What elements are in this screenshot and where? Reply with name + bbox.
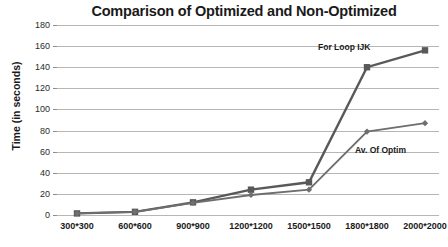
series-line: [77, 123, 425, 213]
data-point-marker: [422, 47, 428, 53]
y-axis-tick-label: 20: [40, 189, 50, 199]
y-axis-tick-label: 80: [40, 126, 50, 136]
x-axis-tick-label: 1200*1200: [229, 221, 273, 231]
x-axis-tick-label: 600*600: [118, 221, 152, 231]
y-axis-tick-label: 120: [35, 83, 50, 93]
x-axis-tick-label: 900*900: [176, 221, 210, 231]
y-axis-title: Time (in seconds): [10, 36, 22, 176]
x-axis-tick-label: 1500*1500: [287, 221, 331, 231]
y-axis-tick-label: 60: [40, 147, 50, 157]
series-annotation-for-loop-ijk: For Loop IJK: [318, 42, 370, 52]
chart-title: Comparison of Optimized and Non-Optimize…: [48, 3, 440, 19]
data-point-marker: [306, 179, 312, 185]
series-group: [57, 25, 439, 215]
x-axis-tick-label: 1800*1800: [345, 221, 389, 231]
y-axis-tick-label: 40: [40, 168, 50, 178]
plot-area: 020406080100120140160180: [57, 25, 439, 215]
y-axis-tick-label: 160: [35, 41, 50, 51]
y-axis-tick-label: 0: [45, 210, 50, 220]
chart-container: Comparison of Optimized and Non-Optimize…: [0, 0, 448, 247]
x-axis-tick-label: 2000*2000: [403, 221, 447, 231]
data-point-marker: [422, 120, 428, 126]
y-axis-tick-label: 140: [35, 62, 50, 72]
gridline: [57, 215, 439, 216]
x-axis-tick-label: 300*300: [60, 221, 94, 231]
y-axis-tick-label: 100: [35, 104, 50, 114]
y-axis-tick-label: 180: [35, 20, 50, 30]
y-axis-tick: [53, 215, 57, 216]
series-annotation-av-of-optim: Av. Of Optim: [355, 145, 406, 155]
data-point-marker: [364, 64, 370, 70]
